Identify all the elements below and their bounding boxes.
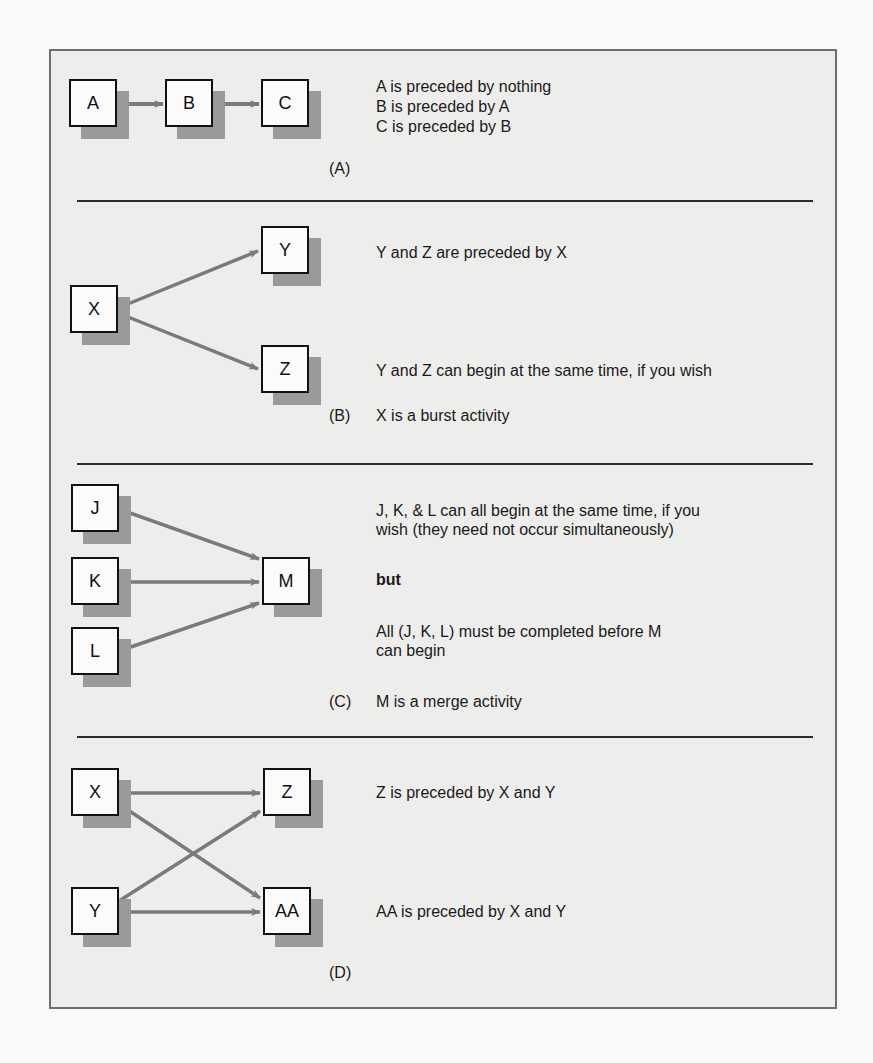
section-c-label: (C) [329, 692, 351, 711]
node-d-x: X [71, 768, 119, 816]
figure-frame: A B C A is preceded by nothing B is prec… [49, 49, 837, 1009]
node-b: B [165, 79, 213, 127]
divider-b-c [77, 463, 813, 465]
section-a-line-2: B is preceded by A [376, 97, 509, 116]
node-d-z: Z [263, 768, 311, 816]
node-x: X [70, 285, 118, 333]
node-d-y-label: Y [71, 887, 119, 935]
section-a-line-1: A is preceded by nothing [376, 77, 551, 96]
section-b-label: (B) [329, 406, 350, 425]
node-d-y: Y [71, 887, 119, 935]
node-c-label: C [261, 79, 309, 127]
node-m: M [262, 557, 310, 605]
node-c: C [261, 79, 309, 127]
node-z-label: Z [261, 345, 309, 393]
arrow-x-to-z [118, 313, 258, 369]
node-z: Z [261, 345, 309, 393]
node-d-z-label: Z [263, 768, 311, 816]
arrow-dx-to-aa [119, 804, 260, 898]
node-d-aa: AA [263, 887, 311, 935]
section-c-line-3: All (J, K, L) must be completed before M… [376, 622, 676, 660]
section-d-line-1: Z is preceded by X and Y [376, 783, 555, 802]
section-b-line-2: Y and Z can begin at the same time, if y… [376, 361, 712, 380]
node-k: K [71, 557, 119, 605]
section-c-line-1: J, K, & L can all begin at the same time… [376, 501, 706, 539]
section-b-caption: X is a burst activity [376, 406, 509, 425]
node-d-x-label: X [71, 768, 119, 816]
node-j: J [71, 484, 119, 532]
section-a-label: (A) [329, 159, 350, 178]
node-m-label: M [262, 557, 310, 605]
node-b-label: B [165, 79, 213, 127]
section-d-line-2: AA is preceded by X and Y [376, 902, 566, 921]
arrow-l-to-m [119, 603, 259, 651]
section-c-caption: M is a merge activity [376, 692, 522, 711]
node-a-label: A [69, 79, 117, 127]
node-l-label: L [71, 627, 119, 675]
node-y: Y [261, 226, 309, 274]
node-y-label: Y [261, 226, 309, 274]
divider-c-d [77, 736, 813, 738]
section-b-line-1: Y and Z are preceded by X [376, 243, 567, 262]
node-k-label: K [71, 557, 119, 605]
arrow-dy-to-z [119, 811, 260, 901]
node-l: L [71, 627, 119, 675]
node-a: A [69, 79, 117, 127]
divider-a-b [77, 200, 813, 202]
node-x-label: X [70, 285, 118, 333]
arrow-x-to-y [118, 251, 258, 308]
node-d-aa-label: AA [263, 887, 311, 935]
arrow-j-to-m [119, 509, 259, 559]
section-c-line-2: but [376, 570, 401, 589]
node-j-label: J [71, 484, 119, 532]
section-a-line-3: C is preceded by B [376, 117, 511, 136]
section-d-label: (D) [329, 963, 351, 982]
